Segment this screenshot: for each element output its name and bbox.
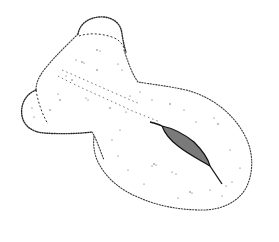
axis-line-2	[62, 70, 140, 104]
specimen-drawing	[0, 0, 279, 242]
organ-head	[150, 122, 162, 126]
left-lobe-inner-edge	[36, 90, 48, 124]
upper-lobe-inner-edge	[79, 34, 124, 48]
central-dark-organ	[162, 126, 210, 166]
organ-tail	[210, 166, 222, 184]
main-body-outline-left	[36, 34, 78, 90]
upper-small-lobe	[78, 17, 126, 52]
specimen-illustration	[0, 0, 279, 242]
left-lobe	[22, 90, 92, 134]
stipple-marks	[31, 49, 240, 198]
